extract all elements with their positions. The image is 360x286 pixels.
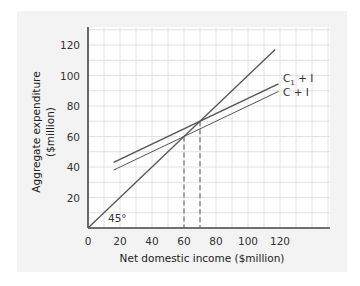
y-tick-label: 60 xyxy=(67,131,80,143)
chart: 02040608010012020406080100120 Net domest… xyxy=(0,0,360,286)
y-tick-label: 80 xyxy=(67,100,80,112)
y-axis-label: Aggregate expenditure xyxy=(30,71,42,192)
x-tick-label: 100 xyxy=(238,235,258,247)
y-axis-label-unit: ($million) xyxy=(44,107,56,157)
y-tick-label: 100 xyxy=(60,70,80,82)
x-tick-label: 0 xyxy=(85,235,92,247)
gridlines xyxy=(88,27,330,228)
x-tick-label: 80 xyxy=(209,235,222,247)
x-tick-label: 20 xyxy=(113,235,126,247)
y-tick-label: 40 xyxy=(67,161,80,173)
angle-annotation: 45° xyxy=(108,212,127,224)
x-tick-label: 60 xyxy=(177,235,190,247)
series-label-c-plus-i: C + I xyxy=(283,86,309,98)
x-tick-label: 40 xyxy=(145,235,158,247)
x-axis-label: Net domestic income ($million) xyxy=(120,252,285,264)
x-tick-label: 120 xyxy=(270,235,290,247)
y-tick-label: 120 xyxy=(60,39,80,51)
y-tick-label: 20 xyxy=(67,192,80,204)
